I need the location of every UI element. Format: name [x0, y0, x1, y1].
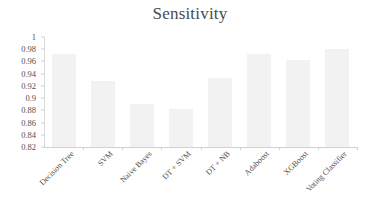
bar[interactable]	[208, 78, 232, 147]
y-tick-label: 0.94	[21, 69, 36, 78]
bar[interactable]	[130, 104, 154, 147]
bar-slot	[201, 37, 240, 147]
bar[interactable]	[169, 109, 193, 148]
bar[interactable]	[91, 81, 115, 147]
chart-title: Sensitivity	[0, 4, 380, 24]
bar-slot	[83, 37, 122, 147]
bar[interactable]	[247, 54, 271, 147]
bar-slot	[279, 37, 318, 147]
x-tick-label: Decision Tree	[38, 150, 75, 187]
x-tick-label: Voting Classifier	[305, 150, 349, 194]
y-tick-label: 0.98	[21, 45, 36, 54]
y-axis-tick-labels: 10.980.960.940.920.90.880.860.840.82	[0, 37, 44, 147]
x-tick-label: Adaboost	[243, 150, 270, 177]
bar-slot	[44, 37, 83, 147]
x-tick-label: Naive Bayes	[119, 150, 153, 184]
y-tick-label: 0.96	[21, 57, 36, 66]
plot-area	[44, 37, 357, 147]
x-tick-label: DT + SVM	[161, 150, 192, 181]
y-tick-label: 0.88	[21, 106, 36, 115]
x-tick-label: XGBoost	[283, 150, 310, 177]
bar-slot	[318, 37, 357, 147]
bar[interactable]	[52, 54, 76, 147]
bar-slot	[161, 37, 200, 147]
bar[interactable]	[286, 60, 310, 147]
sensitivity-bar-chart: Sensitivity 10.980.960.940.920.90.880.86…	[0, 0, 380, 209]
x-tick-label: DT + NB	[205, 150, 232, 177]
y-tick-label: 0.92	[21, 82, 36, 91]
y-tick-label: 0.9	[25, 94, 36, 103]
x-axis-category-labels: Decision TreeSVMNaive BayesDT + SVMDT + …	[0, 150, 380, 209]
bar[interactable]	[325, 49, 349, 147]
x-tick-label: SVM	[96, 150, 114, 168]
y-tick-label: 1	[32, 33, 36, 42]
bar-slot	[122, 37, 161, 147]
bar-slot	[240, 37, 279, 147]
y-tick-label: 0.84	[21, 131, 36, 140]
y-tick-label: 0.86	[21, 118, 36, 127]
